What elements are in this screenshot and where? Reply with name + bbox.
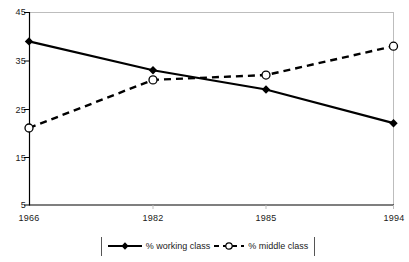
legend-marker-middle-class xyxy=(214,241,244,251)
data-point-marker xyxy=(25,124,33,132)
legend-marker-working-class xyxy=(108,241,142,251)
line-chart: 45 35 25 15 5 1966 1982 1985 1994 xyxy=(0,0,409,262)
x-axis-ticks xyxy=(153,205,394,209)
data-point-marker xyxy=(262,71,270,79)
legend-label-middle-class: % middle class xyxy=(248,242,308,251)
series-middle-class xyxy=(25,42,398,132)
plot-area xyxy=(0,0,409,262)
chart-legend: % working class % middle class xyxy=(110,236,306,256)
data-point-marker xyxy=(25,37,33,45)
series-working-class xyxy=(25,37,398,127)
series-line xyxy=(29,41,394,123)
data-point-marker xyxy=(390,42,398,50)
legend-inner: % working class % middle class xyxy=(101,237,316,256)
legend-label-working-class: % working class xyxy=(146,242,211,251)
data-point-marker xyxy=(149,66,157,74)
series-layer xyxy=(25,37,398,132)
data-point-marker xyxy=(389,119,397,127)
series-line xyxy=(29,46,394,128)
data-point-marker xyxy=(262,85,270,93)
data-point-marker xyxy=(149,76,157,84)
